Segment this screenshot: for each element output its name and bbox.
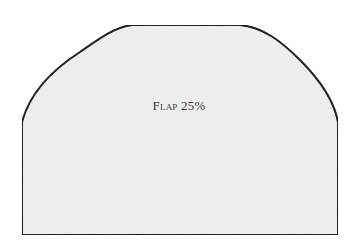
flap-pattern-shape bbox=[0, 0, 358, 250]
pattern-canvas: Flap 25% bbox=[0, 0, 358, 250]
flap-outline bbox=[22, 25, 338, 235]
flap-label: Flap 25% bbox=[0, 98, 358, 114]
piece-name: Flap bbox=[153, 98, 178, 113]
piece-percentage: 25% bbox=[181, 98, 205, 113]
